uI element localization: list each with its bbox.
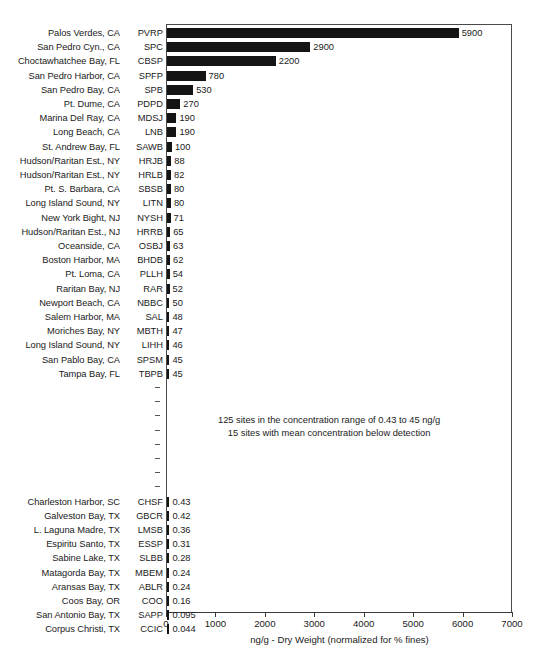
site-name-label: Coos Bay, OR [0,594,120,608]
bar [167,99,180,109]
bar-track: 190 [167,125,513,139]
bar-track: 63 [167,239,513,253]
bar [167,127,176,137]
table-row: Pt. Dume, CAPDPD270 [0,97,543,111]
placeholder-row [0,395,543,409]
site-code-label: SAWB [124,140,163,154]
horizontal-bar-chart: Palos Verdes, CAPVRP5900San Pedro Cyn., … [0,0,543,660]
site-code-label: PDPD [124,97,163,111]
site-name-label: Charleston Harbor, SC [0,495,120,509]
bar-track: 62 [167,253,513,267]
bar-track: 5900 [167,26,513,40]
chart-annotation: 125 sites in the concentration range of … [218,414,440,440]
site-code-label: HRRB [124,225,163,239]
bar-track: 100 [167,140,513,154]
x-tick-mark [265,612,266,617]
x-tick-label: 4000 [353,618,374,629]
placeholder-row [0,452,543,466]
bar-track: 82 [167,168,513,182]
site-name-label: Hudson/Raritan Est., NY [0,154,120,168]
bar-track: 80 [167,182,513,196]
bar-track: 52 [167,282,513,296]
x-tick-label: 0 [163,618,168,629]
site-code-label: LNB [124,125,163,139]
bar-rows-container: Palos Verdes, CAPVRP5900San Pedro Cyn., … [0,0,543,612]
bar-track: 0.24 [167,566,513,580]
bar-value-label: 0.42 [169,509,190,523]
site-name-label: Palos Verdes, CA [0,26,120,40]
omitted-rows-dash [155,486,160,487]
site-code-label: SAL [124,310,163,324]
table-row: New York Bight, NJNYSH71 [0,211,543,225]
table-row: Oceanside, CAOSBJ63 [0,239,543,253]
bar [167,42,310,52]
table-row: San Pablo Bay, CASPSM45 [0,353,543,367]
bar-track: 46 [167,338,513,352]
omitted-rows-dash [155,458,160,459]
table-row: Moriches Bay, NYMBTH47 [0,324,543,338]
x-tick-label: 7000 [501,618,522,629]
omitted-rows-dash [155,401,160,402]
bar-track: 45 [167,353,513,367]
table-row: Tampa Bay, FLTBPB45 [0,367,543,381]
bar-value-label: 47 [169,324,182,338]
bar-value-label: 0.36 [169,523,190,537]
site-code-label: HRJB [124,154,163,168]
site-name-label: Marina Del Ray, CA [0,111,120,125]
table-row: Boston Harbor, MABHDB62 [0,253,543,267]
site-name-label: Espiritu Santo, TX [0,537,120,551]
site-code-label: CHSF [124,495,163,509]
table-row: San Pedro Bay, CASPB530 [0,83,543,97]
site-name-label: San Pedro Harbor, CA [0,69,120,83]
site-code-label: GBCR [124,509,163,523]
table-row: San Pedro Cyn., CASPC2900 [0,40,543,54]
table-row: Pt. S. Barbara, CASBSB80 [0,182,543,196]
bar-track: 190 [167,111,513,125]
site-code-label: COO [124,594,163,608]
site-name-label: Matagorda Bay, TX [0,566,120,580]
site-code-label: PLLH [124,267,163,281]
bar-track: 0.28 [167,551,513,565]
site-name-label: Aransas Bay, TX [0,580,120,594]
table-row: Galveston Bay, TXGBCR0.42 [0,509,543,523]
table-row: Marina Del Ray, CAMDSJ190 [0,111,543,125]
x-axis-title: ng/g - Dry Weight (normalized for % fine… [166,634,513,645]
bar-value-label: 50 [169,296,182,310]
bar-track: 54 [167,267,513,281]
table-row: St. Andrew Bay, FLSAWB100 [0,140,543,154]
bar-value-label: 62 [170,253,183,267]
site-code-label: SPB [124,83,163,97]
x-tick-label: 1000 [205,618,226,629]
bar-value-label: 0.31 [169,537,190,551]
x-tick-label: 3000 [304,618,325,629]
bar-value-label: 45 [169,367,182,381]
site-name-label: San Pedro Cyn., CA [0,40,120,54]
bar-value-label: 63 [170,239,183,253]
placeholder-row [0,480,543,494]
omitted-rows-dash [155,387,160,388]
site-code-label: SBSB [124,182,163,196]
site-name-label: Sabine Lake, TX [0,551,120,565]
site-code-label: PVRP [124,26,163,40]
table-row: Raritan Bay, NJRAR52 [0,282,543,296]
bar-value-label: 45 [169,353,182,367]
site-name-label: Moriches Bay, NY [0,324,120,338]
site-code-label: SLBB [124,551,163,565]
site-code-label: LIHH [124,338,163,352]
annotation-line-2: 15 sites with mean concentration below d… [218,427,440,440]
x-tick-mark [314,612,315,617]
omitted-rows-dash [155,444,160,445]
table-row: Newport Beach, CANBBC50 [0,296,543,310]
bar-track: 50 [167,296,513,310]
site-name-label: Galveston Bay, TX [0,509,120,523]
bar-track: 48 [167,310,513,324]
x-tick-mark [463,612,464,617]
table-row: Long Island Sound, NYLITN80 [0,196,543,210]
placeholder-row [0,466,543,480]
site-code-label: RAR [124,282,163,296]
site-code-label: LITN [124,196,163,210]
x-tick-mark [364,612,365,617]
table-row: Pt. Loma, CAPLLH54 [0,267,543,281]
bar-track: 0.31 [167,537,513,551]
table-row: Salem Harbor, MASAL48 [0,310,543,324]
